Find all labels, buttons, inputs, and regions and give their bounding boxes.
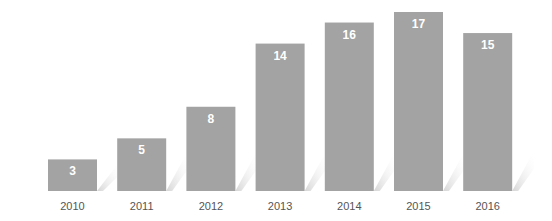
data-label: 16 xyxy=(343,28,357,42)
bar-shadow xyxy=(305,151,327,192)
bar-shadow xyxy=(374,151,396,192)
bar-shadow xyxy=(97,163,119,191)
x-tick-label: 2010 xyxy=(60,200,84,212)
bar-2013 xyxy=(256,44,305,191)
x-axis-tick-labels: 2010201120122013201420152016 xyxy=(60,200,500,212)
data-label: 8 xyxy=(208,112,215,126)
bar-shadow xyxy=(512,151,534,192)
x-tick-label: 2014 xyxy=(337,200,361,212)
x-tick-label: 2016 xyxy=(475,200,499,212)
data-label: 3 xyxy=(69,164,76,178)
bars-group xyxy=(48,12,512,191)
data-label: 14 xyxy=(273,49,287,63)
bar-2016 xyxy=(463,33,512,191)
bar-chart: 35814161715 2010201120122013201420152016 xyxy=(0,0,552,221)
x-tick-label: 2015 xyxy=(406,200,430,212)
bar-shadow xyxy=(443,151,465,192)
bar-2015 xyxy=(394,12,443,191)
x-tick-label: 2012 xyxy=(199,200,223,212)
data-label: 5 xyxy=(138,143,145,157)
x-tick-label: 2011 xyxy=(130,200,154,212)
bar-2014 xyxy=(325,23,374,191)
data-label: 15 xyxy=(481,38,495,52)
bar-shadow xyxy=(235,151,257,192)
bar-shadow xyxy=(166,151,188,192)
x-tick-label: 2013 xyxy=(268,200,292,212)
data-label: 17 xyxy=(412,17,426,31)
